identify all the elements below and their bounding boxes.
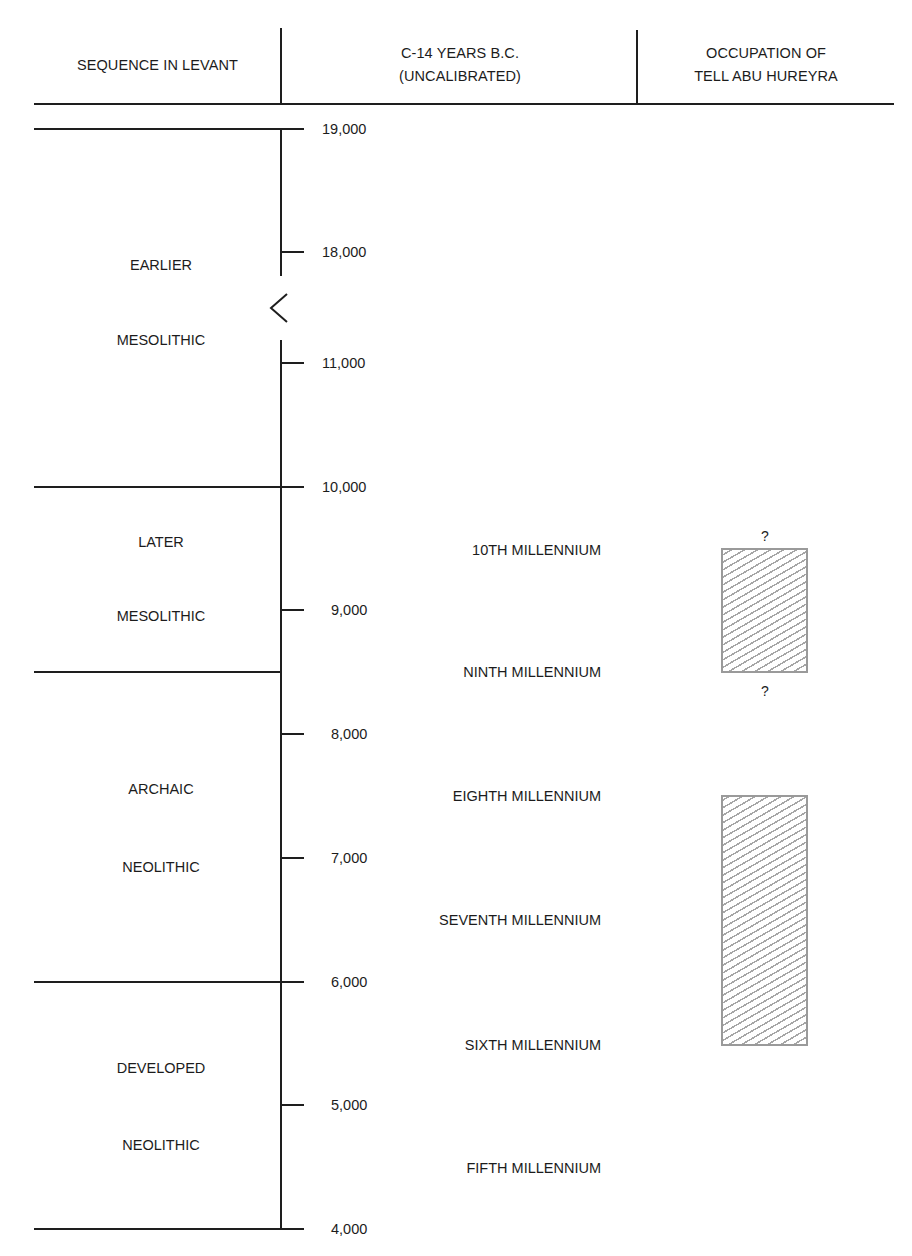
column-header-occupation: OCCUPATION OF TELL ABU HUREYRA bbox=[639, 42, 893, 88]
axis-label-4000: 4,000 bbox=[331, 1220, 367, 1238]
axis-tick-19000 bbox=[281, 128, 304, 130]
axis-label-9000: 9,000 bbox=[331, 601, 367, 619]
axis-tick-7000 bbox=[281, 857, 304, 859]
period-boundary-19000 bbox=[34, 128, 281, 130]
column-header-sequence: SEQUENCE IN LEVANT bbox=[34, 54, 281, 77]
column-header-occupation-line2: TELL ABU HUREYRA bbox=[639, 65, 893, 88]
column-header-occupation-line1: OCCUPATION OF bbox=[639, 42, 893, 65]
header-bottom-rule bbox=[34, 103, 894, 105]
axis-label-7000: 7,000 bbox=[331, 849, 367, 867]
axis-tick-10000 bbox=[281, 486, 304, 488]
axis-tick-5000 bbox=[281, 1104, 304, 1106]
axis-tick-6000 bbox=[281, 981, 304, 983]
period-later-mesolithic-line2: MESOLITHIC bbox=[41, 607, 281, 625]
header-divider-1 bbox=[280, 28, 282, 105]
millennium-label-seventh: SEVENTH MILLENNIUM bbox=[341, 911, 601, 929]
column-header-c14-line2: (UNCALIBRATED) bbox=[283, 65, 637, 88]
millennium-label-ninth: NINTH MILLENNIUM bbox=[341, 663, 601, 681]
axis-tick-18000 bbox=[281, 251, 304, 253]
millennium-label-sixth: SIXTH MILLENNIUM bbox=[341, 1036, 601, 1054]
occupation-start-uncertain-mark: ? bbox=[755, 528, 775, 544]
period-later-mesolithic-line1: LATER bbox=[41, 533, 281, 551]
occupation-phase-2-bar bbox=[721, 795, 808, 1046]
period-archaic-neolithic-line2: NEOLITHIC bbox=[41, 858, 281, 876]
period-earlier-mesolithic-line1: EARLIER bbox=[41, 256, 281, 274]
axis-label-18000: 18,000 bbox=[322, 243, 366, 261]
period-developed-neolithic-line2: NEOLITHIC bbox=[41, 1136, 281, 1154]
period-boundary-8500 bbox=[34, 671, 281, 673]
millennium-label-10th: 10TH MILLENNIUM bbox=[341, 541, 601, 559]
axis-break-icon bbox=[268, 290, 292, 330]
column-header-sequence-text: SEQUENCE IN LEVANT bbox=[77, 57, 238, 73]
axis-tick-11000 bbox=[281, 362, 304, 364]
column-header-c14-years: C-14 YEARS B.C. (UNCALIBRATED) bbox=[283, 42, 637, 88]
axis-tick-4000 bbox=[281, 1228, 304, 1230]
axis-line-upper bbox=[280, 129, 282, 276]
axis-tick-8000 bbox=[281, 733, 304, 735]
period-developed-neolithic-line1: DEVELOPED bbox=[41, 1059, 281, 1077]
axis-label-5000: 5,000 bbox=[331, 1096, 367, 1114]
period-boundary-4000 bbox=[34, 1228, 281, 1230]
period-boundary-6000 bbox=[34, 981, 281, 983]
millennium-label-fifth: FIFTH MILLENNIUM bbox=[341, 1159, 601, 1177]
axis-tick-9000 bbox=[281, 609, 304, 611]
header-divider-2 bbox=[636, 30, 638, 105]
period-earlier-mesolithic-line2: MESOLITHIC bbox=[41, 331, 281, 349]
occupation-phase-1-bar bbox=[721, 548, 808, 673]
axis-label-10000: 10,000 bbox=[322, 478, 366, 496]
millennium-label-eighth: EIGHTH MILLENNIUM bbox=[341, 787, 601, 805]
period-boundary-10000 bbox=[34, 486, 281, 488]
axis-label-6000: 6,000 bbox=[331, 973, 367, 991]
occupation-end-uncertain-mark: ? bbox=[755, 683, 775, 699]
axis-label-19000: 19,000 bbox=[322, 120, 366, 138]
axis-label-8000: 8,000 bbox=[331, 725, 367, 743]
period-archaic-neolithic-line1: ARCHAIC bbox=[41, 780, 281, 798]
axis-label-11000: 11,000 bbox=[322, 354, 365, 372]
column-header-c14-line1: C-14 YEARS B.C. bbox=[283, 42, 637, 65]
